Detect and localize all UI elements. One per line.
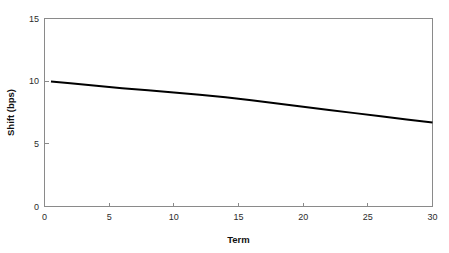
x-tick-label-20: 20 <box>298 212 308 222</box>
y-axis-title: Shift (bps) <box>5 89 16 136</box>
x-tick-label-15: 15 <box>233 212 243 222</box>
y-tick-label-0: 0 <box>34 202 39 212</box>
x-axis-title: Term <box>227 234 250 245</box>
y-tick-label-15: 15 <box>29 14 39 24</box>
y-tick-label-10: 10 <box>29 76 39 86</box>
x-tick-label-30: 30 <box>427 212 437 222</box>
x-tick-label-25: 25 <box>363 212 373 222</box>
x-tick-label-0: 0 <box>42 212 47 222</box>
line-chart: 0 5 10 15 0 5 10 15 20 25 30 Term <box>0 0 449 253</box>
chart-background <box>0 0 449 253</box>
chart-container: 0 5 10 15 0 5 10 15 20 25 30 Term <box>0 0 449 253</box>
x-tick-label-10: 10 <box>169 212 179 222</box>
x-tick-label-5: 5 <box>107 212 112 222</box>
y-tick-label-5: 5 <box>34 139 39 149</box>
